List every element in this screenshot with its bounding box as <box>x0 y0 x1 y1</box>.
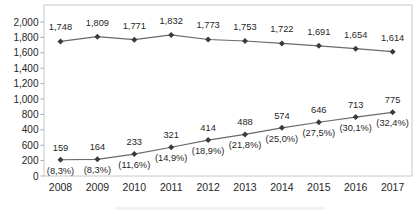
data-point-marker <box>58 38 64 44</box>
data-label: 1,832 <box>160 16 183 26</box>
data-point-marker <box>168 32 174 38</box>
x-axis-label: 2016 <box>344 181 368 193</box>
x-axis-label: 2010 <box>123 181 147 193</box>
x-axis-label: 2017 <box>381 181 405 193</box>
data-label: 1,773 <box>196 20 219 30</box>
percent-label: (21,8%) <box>229 140 262 150</box>
data-point-marker <box>168 144 174 150</box>
data-label: 1,614 <box>381 33 404 43</box>
data-label: 775 <box>385 95 401 105</box>
data-point-marker <box>390 109 396 115</box>
y-axis-label: 600 <box>22 140 39 151</box>
percent-label: (8,3%) <box>84 165 111 175</box>
percent-label: (18,9%) <box>192 146 225 156</box>
data-point-marker <box>242 38 248 44</box>
data-point-marker <box>353 114 359 120</box>
data-point-marker <box>279 125 285 131</box>
line-chart: 2,0001,8001,6001,4001,2001,0008004006002… <box>0 0 417 212</box>
y-axis-label: 0 <box>33 171 39 182</box>
percent-label: (11,6%) <box>118 160 150 170</box>
data-label: 646 <box>311 105 327 115</box>
percent-label: (14,9%) <box>155 153 188 163</box>
data-point-marker <box>316 43 322 49</box>
data-label: 233 <box>127 137 143 147</box>
data-label: 1,809 <box>86 18 109 28</box>
data-label: 1,691 <box>307 27 330 37</box>
x-axis-label: 2009 <box>86 181 110 193</box>
data-label: 164 <box>90 142 106 152</box>
data-point-marker <box>94 156 100 162</box>
data-label: 414 <box>200 123 216 133</box>
series-line <box>61 112 393 159</box>
data-point-marker <box>316 119 322 125</box>
data-label: 574 <box>274 111 290 121</box>
y-axis-label: 1,600 <box>13 47 38 58</box>
data-label: 321 <box>163 130 179 140</box>
x-axis-label: 2014 <box>270 181 294 193</box>
x-axis-label: 2013 <box>233 181 257 193</box>
data-point-marker <box>131 151 137 157</box>
data-label: 1,753 <box>233 22 256 32</box>
y-axis-label: 200 <box>22 155 39 166</box>
data-label: 1,722 <box>270 24 293 34</box>
percent-label: (32,4%) <box>376 118 409 128</box>
percent-label: (27,5%) <box>303 128 336 138</box>
data-point-marker <box>205 137 211 143</box>
data-label: 159 <box>53 143 69 153</box>
y-axis-label: 1,000 <box>13 94 38 105</box>
y-axis-label: 1,800 <box>13 32 38 43</box>
data-label: 488 <box>237 117 253 127</box>
y-axis-label: 2,000 <box>13 17 38 28</box>
data-point-marker <box>242 131 248 137</box>
data-label: 713 <box>348 100 364 110</box>
y-axis-label: 1,400 <box>13 63 38 74</box>
data-point-marker <box>131 37 137 43</box>
data-label: 1,654 <box>344 30 367 40</box>
x-axis-label: 2008 <box>49 181 73 193</box>
data-point-marker <box>94 34 100 40</box>
y-axis-label: 1,200 <box>13 78 38 89</box>
x-axis-label: 2011 <box>160 181 183 193</box>
y-axis-label: 800 <box>22 109 39 120</box>
data-point-marker <box>279 40 285 46</box>
percent-label: (8,3%) <box>47 166 74 176</box>
percent-label: (30,1%) <box>339 123 372 133</box>
data-point-marker <box>353 46 359 52</box>
x-axis-label: 2015 <box>307 181 331 193</box>
cropped-caption-remnant <box>115 207 325 210</box>
y-axis-label: 400 <box>22 124 39 135</box>
data-label: 1,748 <box>49 22 72 32</box>
series-line <box>61 35 393 52</box>
data-point-marker <box>58 157 64 163</box>
chart-canvas: 2,0001,8001,6001,4001,2001,0008004006002… <box>0 0 417 212</box>
data-point-marker <box>205 36 211 42</box>
percent-label: (25,0%) <box>266 134 299 144</box>
data-label: 1,771 <box>123 21 146 31</box>
x-axis-label: 2012 <box>196 181 220 193</box>
data-point-marker <box>390 49 396 55</box>
